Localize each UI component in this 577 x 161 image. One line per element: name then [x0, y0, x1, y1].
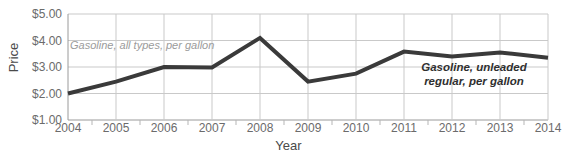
annotation-all-types: Gasoline, all types, per gallon — [70, 39, 214, 51]
annotation-unleaded-regular-line1: Gasoline, unleaded — [421, 61, 526, 73]
annotation-unleaded-regular: Gasoline, unleaded regular, per gallon — [414, 60, 534, 88]
gasoline-price-line-chart: Price $5.00 $4.00 $3.00 $2.00 $1.00 — [0, 0, 577, 161]
x-tick-label-2014: 2014 — [518, 121, 577, 135]
annotation-unleaded-regular-line2: regular, per gallon — [424, 75, 524, 87]
x-axis-title: Year — [0, 138, 577, 153]
